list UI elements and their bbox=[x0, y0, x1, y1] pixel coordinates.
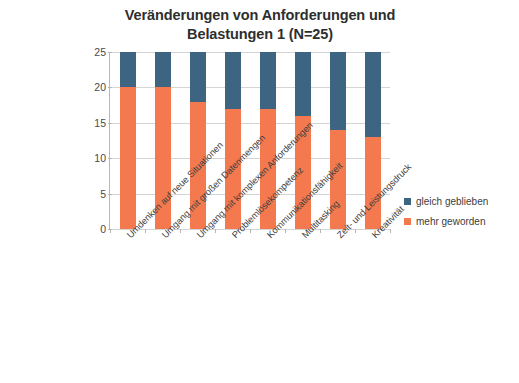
y-axis-tick-label: 10 bbox=[80, 152, 106, 164]
bar-segment-mehr-geworden[interactable] bbox=[120, 87, 136, 229]
bar-segment-gleich-geblieben[interactable] bbox=[225, 52, 241, 109]
gridline bbox=[110, 87, 390, 88]
plot-area bbox=[110, 52, 390, 229]
y-axis-tick-mark bbox=[108, 123, 112, 124]
legend-item-label: gleich geblieben bbox=[416, 196, 488, 207]
bar-segment-gleich-geblieben[interactable] bbox=[260, 52, 276, 109]
y-axis-tick-mark bbox=[108, 194, 112, 195]
bar-segment-gleich-geblieben[interactable] bbox=[120, 52, 136, 87]
x-axis-category-labels: Umdenken auf neue SituationenUmgang mit … bbox=[0, 229, 519, 349]
chart-title-line-2: Belastungen 1 (N=25) bbox=[60, 25, 460, 44]
y-axis-tick-label: 15 bbox=[80, 117, 106, 129]
chart-title-line-1: Veränderungen von Anforderungen und bbox=[60, 6, 460, 25]
gridline bbox=[110, 123, 390, 124]
figure-caption bbox=[14, 371, 514, 383]
y-axis-tick-label: 5 bbox=[80, 188, 106, 200]
y-axis-tick-label: 20 bbox=[80, 81, 106, 93]
y-axis-tick-label: 25 bbox=[80, 46, 106, 58]
bar-column[interactable] bbox=[120, 52, 136, 229]
chart-legend: gleich gebliebenmehr geworden bbox=[404, 193, 516, 233]
gridline bbox=[110, 194, 390, 195]
gridline bbox=[110, 158, 390, 159]
gridline bbox=[110, 52, 390, 53]
bar-segment-gleich-geblieben[interactable] bbox=[330, 52, 346, 130]
bar-segment-gleich-geblieben[interactable] bbox=[295, 52, 311, 116]
y-axis-line bbox=[109, 52, 110, 230]
bar-segment-gleich-geblieben[interactable] bbox=[190, 52, 206, 102]
legend-swatch-icon bbox=[404, 218, 411, 225]
y-axis-tick-mark bbox=[108, 87, 112, 88]
legend-item[interactable]: mehr geworden bbox=[404, 213, 516, 229]
stacked-bar-chart: Veränderungen von Anforderungen und Bela… bbox=[0, 0, 519, 383]
y-axis-tick-mark bbox=[108, 52, 112, 53]
bar-segment-gleich-geblieben[interactable] bbox=[365, 52, 381, 137]
y-axis-tick-labels: 0510152025 bbox=[78, 52, 106, 230]
bar-segment-gleich-geblieben[interactable] bbox=[155, 52, 171, 87]
legend-item[interactable]: gleich geblieben bbox=[404, 193, 516, 209]
chart-title: Veränderungen von Anforderungen und Bela… bbox=[60, 6, 460, 44]
legend-item-label: mehr geworden bbox=[416, 216, 485, 227]
legend-swatch-icon bbox=[404, 198, 411, 205]
y-axis-tick-mark bbox=[108, 158, 112, 159]
y-axis-tick-mark bbox=[108, 229, 112, 230]
